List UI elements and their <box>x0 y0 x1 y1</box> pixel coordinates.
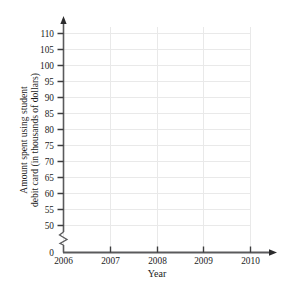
y-tick-labels: 110 105 100 95 90 85 80 75 70 65 60 55 5… <box>40 29 54 258</box>
x-tick-label-2006: 2006 <box>54 256 73 266</box>
x-tick-label-2009: 2009 <box>194 256 213 266</box>
x-tick-label-2008: 2008 <box>148 256 167 266</box>
y-tick-label-60: 60 <box>45 189 55 199</box>
y-tick-label-90: 90 <box>45 93 55 103</box>
x-tick-labels: 2006 2007 2008 2009 2010 <box>54 256 260 266</box>
y-tick-label-95: 95 <box>45 77 55 87</box>
plot-background <box>63 27 250 252</box>
y-tick-label-55: 55 <box>45 205 55 215</box>
y-tick-label-70: 70 <box>45 157 55 167</box>
y-axis-title: Amount spent using student debit card (i… <box>18 73 41 207</box>
y-tick-label-50: 50 <box>45 221 55 231</box>
y-axis-arrowhead <box>60 16 66 24</box>
chart-container: 110 105 100 95 90 85 80 75 70 65 60 55 5… <box>0 0 285 289</box>
x-axis-title: Year <box>148 268 167 279</box>
x-tick-label-2007: 2007 <box>101 256 120 266</box>
y-tick-label-105: 105 <box>40 45 54 55</box>
y-tick-label-65: 65 <box>45 173 55 183</box>
x-tick-label-2010: 2010 <box>241 256 260 266</box>
y-tick-marks <box>58 34 64 226</box>
coordinate-grid-chart: 110 105 100 95 90 85 80 75 70 65 60 55 5… <box>0 0 285 289</box>
y-axis-title-line-1: Amount spent using student <box>18 86 29 194</box>
y-tick-label-100: 100 <box>40 61 54 71</box>
y-tick-label-110: 110 <box>40 29 54 39</box>
y-tick-label-75: 75 <box>45 141 55 151</box>
x-axis-arrowhead <box>269 249 277 255</box>
y-axis-title-line-2: debit card (in thousands of dollars) <box>29 73 41 207</box>
y-tick-label-85: 85 <box>45 109 55 119</box>
y-tick-label-80: 80 <box>45 125 55 135</box>
